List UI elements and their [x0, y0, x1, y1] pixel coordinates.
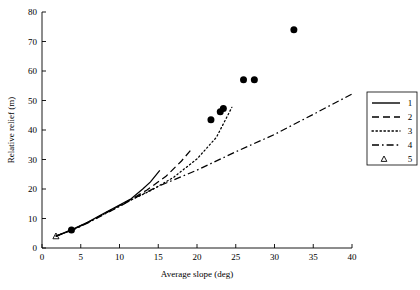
- data-point: [251, 76, 258, 83]
- x-tick-label: 0: [40, 252, 45, 262]
- y-tick-label: 50: [28, 96, 38, 106]
- data-point: [290, 26, 297, 33]
- y-tick-label: 30: [28, 155, 38, 165]
- y-tick-label: 40: [28, 125, 38, 135]
- x-tick-label: 15: [154, 252, 164, 262]
- legend-label-1: 1: [408, 98, 413, 108]
- legend-label-3: 3: [408, 126, 413, 136]
- legend-label-4: 4: [408, 140, 413, 150]
- legend-label-2: 2: [408, 112, 413, 122]
- data-point: [68, 227, 75, 234]
- x-tick-label: 30: [270, 252, 280, 262]
- x-tick-label: 35: [309, 252, 319, 262]
- data-point: [220, 105, 227, 112]
- y-tick-label: 10: [28, 214, 38, 224]
- y-tick-label: 20: [28, 184, 38, 194]
- x-tick-label: 20: [193, 252, 203, 262]
- y-tick-label: 60: [28, 66, 38, 76]
- legend: 12345: [367, 92, 417, 165]
- y-tick-label: 70: [28, 37, 38, 47]
- y-tick-label: 80: [28, 7, 38, 17]
- x-axis-title: Average slope (deg): [161, 269, 233, 279]
- chart-svg: 01020304050607080 0510152025303540 Avera…: [0, 0, 420, 290]
- y-axis-title: Relative relief (m): [6, 97, 16, 163]
- x-tick-label: 10: [115, 252, 125, 262]
- data-point: [240, 76, 247, 83]
- chart-figure: 01020304050607080 0510152025303540 Avera…: [0, 0, 420, 290]
- y-tick-label: 0: [33, 243, 38, 253]
- x-tick-label: 25: [231, 252, 241, 262]
- data-point: [207, 116, 214, 123]
- x-tick-label: 5: [79, 252, 84, 262]
- legend-label-5: 5: [408, 154, 413, 164]
- x-tick-label: 40: [348, 252, 358, 262]
